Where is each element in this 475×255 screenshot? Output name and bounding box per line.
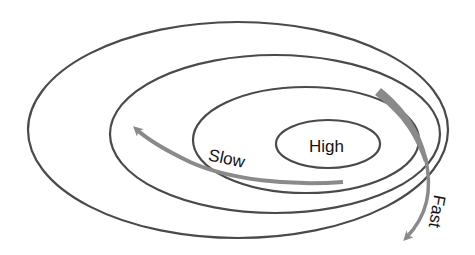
label-slow: Slow <box>207 145 248 171</box>
outer-ring <box>28 22 448 238</box>
fast-arrow-band <box>375 88 428 162</box>
fast-arrow <box>406 160 429 238</box>
nested-ellipse-diagram: High Slow Fast <box>0 0 475 255</box>
label-high: High <box>309 137 344 156</box>
second-ring <box>110 55 440 213</box>
